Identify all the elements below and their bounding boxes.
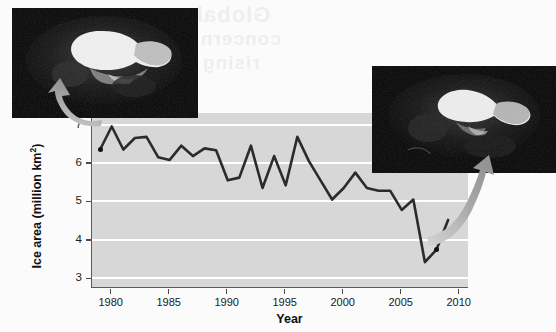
- y-axis-title-text: Ice area (million km2): [30, 144, 44, 269]
- x-tick-mark-2005: [400, 289, 401, 294]
- x-tick-label-1985: 1985: [147, 296, 191, 308]
- y-tick-label-6: 6: [60, 156, 82, 168]
- x-tick-label-1990: 1990: [205, 296, 249, 308]
- y-axis-title: Ice area (million km2): [28, 126, 44, 286]
- y-tick-label-3: 3: [60, 271, 82, 283]
- bleed-through-text-line2: concern: [200, 28, 281, 50]
- figure-container: Global concern rising 34567 198019851990…: [0, 0, 556, 332]
- x-tick-mark-1980: [110, 289, 111, 294]
- x-tick-label-2000: 2000: [321, 296, 365, 308]
- y-tick-mark-4: [86, 239, 91, 240]
- y-tick-label-7: 7: [60, 118, 82, 130]
- y-tick-label-5: 5: [60, 194, 82, 206]
- x-tick-label-2010: 2010: [437, 296, 481, 308]
- satellite-image-1979: [12, 8, 198, 118]
- y-tick-label-4: 4: [60, 233, 82, 245]
- x-tick-label-2005: 2005: [379, 296, 423, 308]
- x-axis-title: Year: [0, 312, 556, 326]
- x-tick-mark-1995: [284, 289, 285, 294]
- x-tick-mark-1985: [168, 289, 169, 294]
- x-tick-mark-2000: [342, 289, 343, 294]
- y-tick-mark-5: [86, 201, 91, 202]
- x-tick-label-1980: 1980: [89, 296, 133, 308]
- y-tick-mark-3: [86, 278, 91, 279]
- y-tick-mark-7: [86, 124, 91, 125]
- start-of-record-marker: [98, 147, 103, 152]
- y-tick-mark-6: [86, 162, 91, 163]
- x-tick-mark-1990: [226, 289, 227, 294]
- x-tick-mark-2010: [458, 289, 459, 294]
- bleed-through-text-line3: rising: [202, 52, 260, 74]
- satellite-image-2008: [372, 66, 556, 173]
- x-tick-label-1995: 1995: [263, 296, 307, 308]
- bleed-through-text-line1: Global: [196, 2, 270, 28]
